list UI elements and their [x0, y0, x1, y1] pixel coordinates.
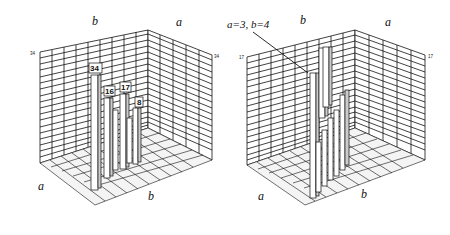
svg-text:34: 34: [30, 51, 36, 56]
svg-text:16: 16: [105, 87, 114, 96]
svg-text:17: 17: [121, 83, 130, 92]
svg-text:17: 17: [428, 54, 434, 59]
axis-label-b-floor: b: [361, 187, 367, 201]
histogram-panel-right: a=3, b=4 b a a b 17 17: [225, 0, 450, 235]
histogram-3d-right: a=3, b=4 b a a b 17 17: [225, 0, 450, 235]
histogram-3d-left: 34 16 17 8 b a a b 34 34: [0, 0, 225, 235]
svg-text:17: 17: [239, 55, 245, 60]
axis-label-a-floor: a: [258, 189, 264, 203]
svg-text:34: 34: [214, 54, 220, 59]
annotation-a3-b4: a=3, b=4: [227, 18, 270, 30]
axis-label-a-top: a: [176, 15, 182, 29]
axis-label-a-floor: a: [38, 179, 44, 193]
histogram-panel-left: 34 16 17 8 b a a b 34 34: [0, 0, 225, 235]
axis-label-a-top: a: [385, 15, 391, 29]
svg-text:34: 34: [90, 64, 99, 73]
axis-label-b-floor: b: [148, 189, 154, 203]
axis-label-b-top: b: [300, 13, 306, 27]
svg-text:8: 8: [137, 98, 142, 107]
axis-label-b-top: b: [92, 14, 98, 28]
